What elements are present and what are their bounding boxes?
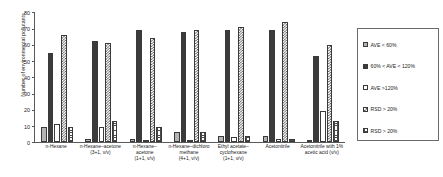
bar — [263, 136, 269, 143]
y-tick: 10 — [24, 117, 35, 135]
y-tick-label: 40 — [24, 75, 30, 81]
legend-item[interactable]: RSD > 20% — [363, 99, 438, 121]
legend-label: AVE >120% — [371, 85, 398, 91]
bar — [54, 124, 60, 142]
bar — [225, 30, 231, 142]
bar-group — [124, 12, 168, 142]
legend-label: 60% < AVE < 120% — [371, 63, 415, 69]
bar — [333, 121, 339, 142]
legend-swatch-icon — [363, 128, 368, 133]
bar — [136, 30, 142, 142]
y-tick-label: 10 — [24, 124, 30, 130]
bar — [320, 111, 326, 142]
legend-item[interactable]: RSD > 20% — [363, 120, 438, 142]
bar — [174, 132, 180, 142]
bar — [269, 30, 275, 142]
y-tick: 50 — [24, 52, 35, 70]
x-axis-label: n-Hexane–acetone(1+1, v/v) — [123, 144, 167, 162]
legend-item[interactable]: 60% < AVE < 120% — [363, 56, 438, 78]
bar — [327, 45, 333, 143]
bar-group — [256, 12, 300, 142]
x-axis-label-line: acetic acid (v/v) — [300, 150, 343, 156]
legend-swatch-icon — [363, 107, 368, 112]
bar — [41, 127, 47, 142]
bar-groups — [35, 12, 345, 142]
plot-area: 01020304050607080 — [34, 12, 345, 143]
bar — [245, 136, 251, 143]
legend-item[interactable]: AVE < 60% — [363, 34, 438, 56]
x-axis-label-line: (3+1, v/v) — [79, 150, 122, 156]
bar — [48, 53, 54, 142]
x-axis-labels: n-Hexanen-Hexane–acetone(3+1, v/v)n-Hexa… — [34, 144, 344, 162]
bar — [112, 121, 118, 142]
y-tick-label: 30 — [24, 91, 30, 97]
bar — [231, 137, 237, 142]
y-tick-label: 70 — [24, 26, 30, 32]
y-tick: 80 — [24, 3, 35, 21]
bar — [143, 140, 149, 142]
chart-legend: AVE < 60%60% < AVE < 120%AVE >120%RSD > … — [357, 28, 439, 141]
legend-swatch-icon — [363, 64, 368, 69]
bar — [194, 30, 200, 142]
bar — [181, 32, 187, 143]
bar — [130, 139, 136, 142]
bar-group — [35, 12, 79, 142]
bar — [187, 140, 193, 142]
bar-group — [212, 12, 256, 142]
legend-label: RSD > 20% — [371, 128, 398, 134]
legend-label: AVE < 60% — [371, 42, 397, 48]
bar — [156, 127, 162, 142]
legend-label: RSD > 20% — [371, 106, 398, 112]
y-tick: 70 — [24, 19, 35, 37]
y-tick: 40 — [24, 68, 35, 86]
y-tick: 20 — [24, 101, 35, 119]
x-axis-label: n-Hexane–acetone(3+1, v/v) — [78, 144, 122, 162]
bar — [105, 43, 111, 142]
x-axis-label-line: (1+1, v/v) — [212, 156, 255, 162]
bar — [218, 136, 224, 143]
x-axis-label-line: Acetonitrile — [256, 144, 299, 150]
y-tick-label: 50 — [24, 59, 30, 65]
y-tick: 30 — [24, 84, 35, 102]
bar — [68, 127, 74, 142]
bar — [282, 22, 288, 142]
x-axis-label: n-Hexane–dichloromethane(4+1, v/v) — [167, 144, 211, 162]
bar — [200, 132, 206, 142]
legend-item[interactable]: AVE >120% — [363, 77, 438, 99]
y-tick: 60 — [24, 36, 35, 54]
x-axis-label: Acetonitrile — [255, 144, 299, 162]
bar-group — [301, 12, 345, 142]
x-axis-label: n-Hexane — [34, 144, 78, 162]
bar — [307, 140, 313, 142]
x-axis-label-line: (1+1, v/v) — [123, 156, 166, 162]
bar — [61, 35, 67, 142]
bar — [99, 127, 105, 142]
x-axis-label-line: n-Hexane — [35, 144, 78, 150]
bar — [276, 139, 282, 142]
x-axis-label: Ethyl acetate–cyclohexane(1+1, v/v) — [211, 144, 255, 162]
legend-swatch-icon — [363, 85, 368, 90]
bar-group — [79, 12, 123, 142]
x-axis-label: Acetonitrile with 1%acetic acid (v/v) — [300, 144, 344, 162]
bar — [92, 41, 98, 142]
y-tick-label: 80 — [24, 10, 30, 16]
legend-swatch-icon — [363, 42, 368, 47]
bar — [238, 27, 244, 142]
x-axis-label-line: (4+1, v/v) — [167, 156, 210, 162]
bar-chart-figure: Number of environmental pollutants 01020… — [0, 0, 443, 177]
y-tick-label: 60 — [24, 42, 30, 48]
y-tick-label: 0 — [27, 140, 30, 146]
bar — [150, 38, 156, 142]
y-tick-label: 20 — [24, 107, 30, 113]
bar — [85, 139, 91, 142]
bar-group — [168, 12, 212, 142]
bar — [289, 139, 295, 142]
bar — [313, 56, 319, 142]
